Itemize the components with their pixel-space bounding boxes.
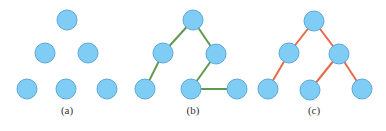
- node: [352, 79, 372, 99]
- node: [206, 44, 226, 64]
- node: [181, 79, 201, 99]
- panel-c: [258, 11, 372, 100]
- node: [304, 11, 324, 31]
- node: [258, 79, 278, 99]
- caption-b: (b): [187, 104, 200, 117]
- node: [329, 44, 349, 64]
- node: [56, 79, 76, 99]
- caption-a: (a): [61, 104, 74, 117]
- tree-diagram: (a) (b) (c): [0, 0, 386, 131]
- node: [300, 80, 320, 100]
- node: [35, 43, 55, 63]
- node: [97, 79, 117, 99]
- panel-b: [135, 10, 247, 99]
- node: [78, 43, 98, 63]
- node: [135, 79, 155, 99]
- node: [153, 43, 173, 63]
- node: [183, 10, 203, 30]
- node: [17, 79, 37, 99]
- node: [57, 10, 77, 30]
- panel-a: [17, 10, 117, 99]
- caption-c: (c): [308, 104, 321, 117]
- node: [279, 43, 299, 63]
- node: [227, 79, 247, 99]
